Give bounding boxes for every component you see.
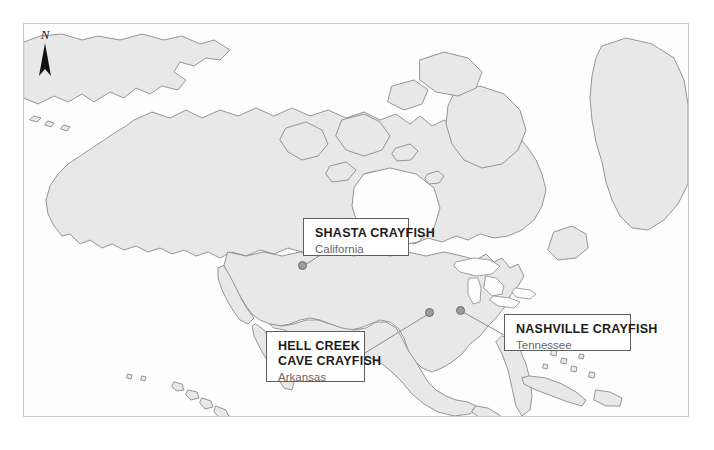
locator-map-figure: SHASTA CRAYFISH California HELL CREEK CA… [0, 0, 714, 450]
callout-title-line2: CAVE CRAYFISH [278, 354, 353, 369]
callout-nashville-crayfish[interactable]: NASHVILLE CRAYFISH Tennessee [504, 314, 631, 351]
callout-subtitle: Arkansas [278, 370, 353, 385]
map-marker-nashville-crayfish[interactable] [456, 306, 465, 315]
map-marker-hell-creek-cave-crayfish[interactable] [425, 308, 434, 317]
callout-title-line1: HELL CREEK [278, 339, 353, 354]
callout-subtitle: Tennessee [516, 338, 619, 353]
callout-hell-creek-cave-crayfish[interactable]: HELL CREEK CAVE CRAYFISH Arkansas [266, 331, 365, 382]
callout-shasta-crayfish[interactable]: SHASTA CRAYFISH California [303, 218, 409, 256]
callout-title: NASHVILLE CRAYFISH [516, 322, 619, 337]
map-marker-shasta-crayfish[interactable] [298, 261, 307, 270]
callout-title: SHASTA CRAYFISH [315, 226, 397, 241]
callout-subtitle: California [315, 242, 397, 257]
